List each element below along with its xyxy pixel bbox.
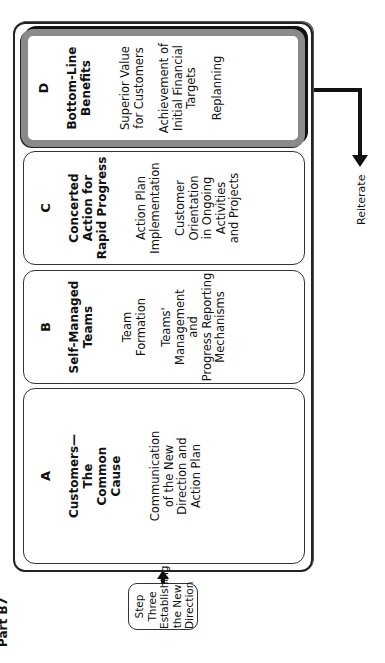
diagram-canvas: Part B7 Step Three Establishing the New … xyxy=(0,0,385,663)
reiterate-arrow-line xyxy=(313,90,360,157)
reiterate-arrowhead-icon xyxy=(352,155,368,167)
panel-item: Action Plan Implementation xyxy=(135,152,162,264)
panel-title: Concerted Action for Rapid Progress xyxy=(67,152,109,264)
panel-item: Customer Orientation in Ongoing Activiti… xyxy=(174,152,242,264)
panel-item: Teams' Management and Progress Reporting… xyxy=(160,271,228,383)
panel-item: Achievement of Initial Financial Targets xyxy=(158,36,199,140)
panel-a: A Customers— The Common Cause Communicat… xyxy=(23,388,305,564)
panel-letter: A xyxy=(38,389,53,563)
panel-items: Team Formation Teams' Management and Pro… xyxy=(121,271,228,383)
panel-letter: D xyxy=(36,36,51,140)
panel-c: C Concerted Action for Rapid Progress Ac… xyxy=(23,151,305,265)
panel-items: Communication of the New Direction and A… xyxy=(149,389,203,563)
panel-letter: C xyxy=(38,152,53,264)
panel-item: Communication of the New Direction and A… xyxy=(149,389,203,563)
panel-item: Team Formation xyxy=(121,271,148,383)
panel-item: Superior Value for Customers xyxy=(119,36,146,140)
panel-letter: B xyxy=(38,271,53,383)
panel-items: Superior Value for Customers Achievement… xyxy=(119,36,224,140)
panel-title: Customers— The Common Cause xyxy=(67,389,123,563)
panel-title: Bottom-Line Benefits xyxy=(65,36,93,140)
panel-items: Action Plan Implementation Customer Orie… xyxy=(135,152,242,264)
process-frame: A Customers— The Common Cause Communicat… xyxy=(13,22,313,572)
panel-b: B Self-Managed Teams Team Formation Team… xyxy=(23,270,305,384)
panel-title: Self-Managed Teams xyxy=(67,271,95,383)
panel-d-highlighted: D Bottom-Line Benefits Superior Value fo… xyxy=(21,29,305,147)
reiterate-label: Reiterate xyxy=(355,175,368,225)
panel-item: Replanning xyxy=(211,36,225,140)
